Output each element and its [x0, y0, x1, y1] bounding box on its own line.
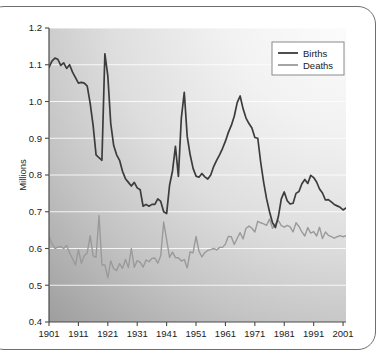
x-tick-label: 1921	[97, 328, 118, 339]
y-tick-label: 0.7	[29, 206, 42, 217]
chart-figure: 0.40.50.60.70.80.91.01.11.2 190119111921…	[0, 0, 390, 360]
legend-label-births: Births	[303, 48, 328, 59]
y-tick-label: 1.0	[29, 96, 42, 107]
x-axis-ticks: 1901191119211931194119511961197119811991…	[38, 322, 353, 339]
x-tick-label: 1961	[215, 328, 236, 339]
legend-label-deaths: Deaths	[303, 60, 333, 71]
x-tick-label: 2001	[332, 328, 353, 339]
x-tick-label: 1911	[68, 328, 88, 339]
y-axis-ticks: 0.40.50.60.70.80.91.01.11.2	[29, 22, 49, 327]
x-tick-label: 1991	[303, 328, 324, 339]
x-tick-label: 1931	[127, 328, 148, 339]
x-tick-label: 1981	[274, 328, 295, 339]
y-tick-label: 0.6	[29, 243, 42, 254]
y-tick-label: 0.8	[29, 169, 42, 180]
y-tick-label: 1.1	[29, 59, 42, 70]
legend: Births Deaths	[272, 42, 344, 75]
x-tick-label: 1901	[38, 328, 59, 339]
y-tick-label: 1.2	[29, 22, 42, 33]
y-axis-title: Millions	[17, 159, 28, 191]
y-tick-label: 0.4	[29, 316, 42, 327]
chart-screenshot-root: 0.40.50.60.70.80.91.01.11.2 190119111921…	[0, 0, 390, 360]
y-tick-label: 0.5	[29, 280, 42, 291]
x-tick-label: 1941	[156, 328, 177, 339]
x-tick-label: 1971	[244, 328, 265, 339]
line-chart-svg: 0.40.50.60.70.80.91.01.11.2 190119111921…	[0, 0, 390, 360]
y-tick-label: 0.9	[29, 133, 42, 144]
x-tick-label: 1951	[185, 328, 206, 339]
